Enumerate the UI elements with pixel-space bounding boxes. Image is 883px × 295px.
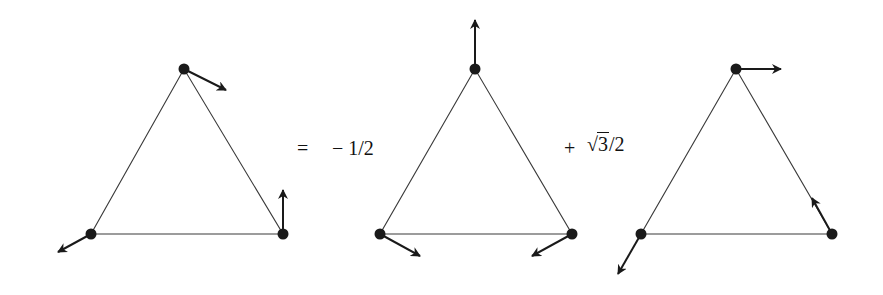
diagram-canvas [0, 0, 883, 295]
vertex-dot [827, 229, 838, 240]
triangle-lhs [58, 64, 289, 253]
vertex-dot [179, 64, 190, 75]
vertex-dot [278, 229, 289, 240]
vertex-dot [470, 64, 481, 75]
coefficient-negative-half: − 1/2 [332, 138, 374, 158]
vertex-dot [636, 229, 647, 240]
arrow-icon [380, 234, 420, 256]
vertex-dot [731, 64, 742, 75]
triangle-term1 [375, 20, 578, 256]
vertex-dot [375, 229, 386, 240]
coefficient-sqrt3-over-2: √3/2 [587, 134, 625, 154]
one-half-value: 1/2 [348, 137, 374, 159]
plus-sign: + [564, 138, 575, 158]
denominator-two: /2 [609, 133, 625, 155]
arrow-icon [532, 234, 572, 256]
triangle-edges [91, 69, 283, 234]
triangles-layer [58, 20, 838, 274]
arrow-icon [58, 234, 91, 252]
triangle-edges [380, 69, 572, 234]
minus-sign: − [332, 137, 343, 159]
sqrt-expression: √3 [587, 134, 609, 154]
radicand: 3 [597, 132, 609, 155]
equals-sign: = [297, 138, 308, 158]
triangle-edges [641, 69, 832, 234]
triangle-term2 [618, 64, 838, 275]
arrow-icon [812, 198, 832, 234]
vertex-dot [567, 229, 578, 240]
vertex-dot [86, 229, 97, 240]
arrow-icon [618, 234, 641, 274]
